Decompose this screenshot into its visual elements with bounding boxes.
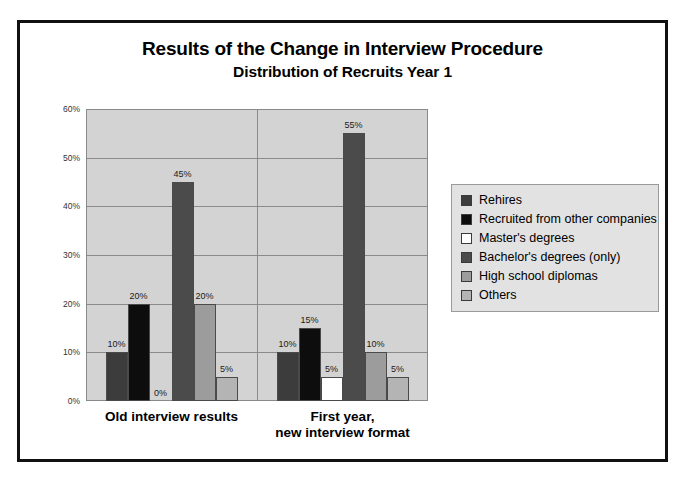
bar: [128, 304, 150, 401]
legend-item-label: Rehires: [479, 193, 522, 207]
bar-value-label: 5%: [220, 364, 233, 374]
bar-value-label: 20%: [195, 291, 213, 301]
bar-value-label: 5%: [325, 364, 338, 374]
legend-swatch-icon: [461, 214, 472, 225]
plot-wrapper: 0%10%20%30%40%50%60% 10%20%0%45%20%5%10%…: [86, 109, 428, 401]
legend-swatch-icon: [461, 233, 472, 244]
title-block: Results of the Change in Interview Proce…: [20, 38, 665, 81]
legend-item[interactable]: High school diplomas: [461, 269, 649, 283]
bar-value-label: 5%: [391, 364, 404, 374]
legend-item[interactable]: Bachelor's degrees (only): [461, 250, 649, 264]
x-axis-category-label-line: First year,: [275, 409, 409, 425]
y-axis-tick-label: 20%: [36, 299, 80, 309]
bar-value-label: 15%: [300, 315, 318, 325]
bar-value-label: 10%: [107, 339, 125, 349]
legend-item-label: Bachelor's degrees (only): [479, 250, 620, 264]
x-axis-category-label: First year,new interview format: [275, 409, 409, 441]
bar: [277, 352, 299, 401]
y-axis-tick-label: 30%: [36, 250, 80, 260]
bar: [321, 377, 343, 401]
bar: [299, 328, 321, 401]
page-title: Results of the Change in Interview Proce…: [20, 38, 665, 60]
legend-item[interactable]: Recruited from other companies: [461, 212, 649, 226]
bar: [106, 352, 128, 401]
bar-value-label: 10%: [366, 339, 384, 349]
legend-item-label: Others: [479, 288, 517, 302]
bar-value-label: 45%: [173, 169, 191, 179]
category-divider: [257, 109, 258, 401]
legend-swatch-icon: [461, 271, 472, 282]
bar: [343, 133, 365, 401]
legend-item-label: Recruited from other companies: [479, 212, 657, 226]
y-axis-tick-label: 40%: [36, 201, 80, 211]
legend-swatch-icon: [461, 290, 472, 301]
bar: [387, 377, 409, 401]
chart-subtitle: Distribution of Recruits Year 1: [20, 63, 665, 81]
legend-item[interactable]: Others: [461, 288, 649, 302]
legend-swatch-icon: [461, 252, 472, 263]
bar-value-label: 55%: [344, 120, 362, 130]
chart-frame: Results of the Change in Interview Proce…: [17, 20, 668, 462]
bar-value-label: 20%: [129, 291, 147, 301]
y-axis-tick-label: 0%: [36, 396, 80, 406]
y-axis-tick-label: 50%: [36, 153, 80, 163]
x-axis-category-label: Old interview results: [105, 409, 238, 425]
bar: [172, 182, 194, 401]
y-axis-tick-label: 10%: [36, 347, 80, 357]
chart-legend: RehiresRecruited from other companiesMas…: [451, 184, 659, 312]
legend-item[interactable]: Rehires: [461, 193, 649, 207]
x-axis-category-label-line: new interview format: [275, 425, 409, 441]
legend-item-label: High school diplomas: [479, 269, 598, 283]
y-axis-tick-label: 60%: [36, 104, 80, 114]
legend-swatch-icon: [461, 195, 472, 206]
legend-item-label: Master's degrees: [479, 231, 574, 245]
bar-value-label: 10%: [278, 339, 296, 349]
bar: [365, 352, 387, 401]
legend-item[interactable]: Master's degrees: [461, 231, 649, 245]
bar-value-label: 0%: [154, 388, 167, 398]
bar: [194, 304, 216, 401]
x-axis-category-label-line: Old interview results: [105, 409, 238, 425]
bar: [216, 377, 238, 401]
